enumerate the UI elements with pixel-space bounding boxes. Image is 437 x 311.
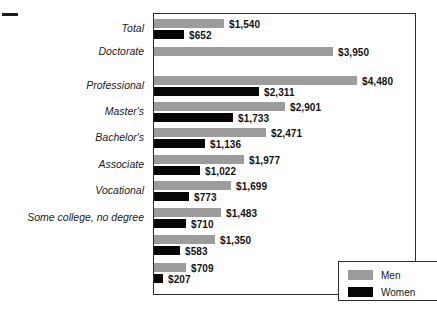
bar-value-label: $1,733 bbox=[238, 112, 269, 123]
bar-value-label: $652 bbox=[189, 29, 212, 40]
bar-women bbox=[154, 219, 186, 228]
bars-plot-area: $1,540$652$3,950$4,480$2,311$2,901$1,733… bbox=[154, 14, 416, 294]
bar-women bbox=[154, 274, 163, 283]
bar-value-label: $4,480 bbox=[362, 75, 393, 86]
category-label: Professional bbox=[86, 79, 144, 91]
bar-value-label: $2,901 bbox=[290, 101, 321, 112]
bar-value-label: $1,699 bbox=[236, 180, 267, 191]
chart-container: TotalDoctorateProfessionalMaster'sBachel… bbox=[0, 0, 437, 311]
bar-value-label: $2,311 bbox=[264, 86, 295, 97]
bar-men bbox=[154, 263, 186, 272]
bar-women bbox=[154, 87, 259, 96]
bar-women bbox=[154, 192, 189, 201]
legend-item[interactable]: Women bbox=[348, 286, 415, 298]
legend-item[interactable]: Men bbox=[348, 269, 400, 281]
bar-value-label: $1,022 bbox=[205, 165, 236, 176]
legend-label: Women bbox=[381, 287, 415, 298]
bar-men bbox=[154, 128, 266, 137]
bar-value-label: $709 bbox=[191, 262, 214, 273]
bar-men bbox=[154, 181, 231, 190]
bar-women bbox=[154, 30, 184, 39]
category-axis-labels: TotalDoctorateProfessionalMaster'sBachel… bbox=[0, 0, 148, 311]
bar-value-label: $583 bbox=[185, 245, 208, 256]
bar-value-label: $710 bbox=[191, 218, 214, 229]
bar-women bbox=[154, 246, 180, 255]
category-label: Some college, no degree bbox=[27, 211, 144, 223]
category-label: Associate bbox=[98, 158, 144, 170]
bar-value-label: $1,540 bbox=[229, 18, 260, 29]
category-label: Total bbox=[122, 22, 144, 34]
category-label: Doctorate bbox=[98, 45, 144, 57]
category-label: Bachelor's bbox=[95, 131, 144, 143]
bar-women bbox=[154, 113, 233, 122]
bar-value-label: $3,950 bbox=[338, 46, 369, 57]
bar-value-label: $1,977 bbox=[249, 154, 280, 165]
bar-men bbox=[154, 76, 357, 85]
category-label: Master's bbox=[105, 105, 144, 117]
category-label: Vocational bbox=[95, 184, 144, 196]
bar-men bbox=[154, 47, 333, 56]
bar-men bbox=[154, 19, 224, 28]
bar-value-label: $207 bbox=[168, 273, 191, 284]
bar-women bbox=[154, 166, 200, 175]
bar-value-label: $1,136 bbox=[210, 138, 241, 149]
bar-men bbox=[154, 208, 221, 217]
bar-men bbox=[154, 102, 285, 111]
bar-men bbox=[154, 235, 215, 244]
bar-value-label: $2,471 bbox=[271, 127, 302, 138]
chart-legend: MenWomen bbox=[338, 261, 437, 301]
legend-swatch-women bbox=[348, 287, 373, 297]
legend-swatch-men bbox=[348, 270, 373, 280]
bar-women bbox=[154, 139, 205, 148]
bar-value-label: $1,350 bbox=[220, 234, 251, 245]
bar-men bbox=[154, 155, 244, 164]
legend-label: Men bbox=[381, 270, 400, 281]
bar-value-label: $773 bbox=[194, 191, 217, 202]
bar-value-label: $1,483 bbox=[226, 207, 257, 218]
